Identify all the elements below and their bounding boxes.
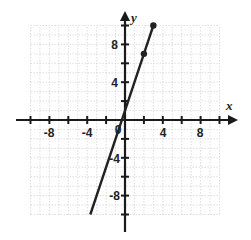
x-tick-label: 8 [197,126,204,140]
x-axis-label: x [225,98,233,113]
x-tick-label: -8 [44,126,55,140]
y-axis-label: y [129,10,137,25]
y-tick-label: 8 [111,38,118,52]
coordinate-plane: x y -8 -4 4 8 0 8 4 -4 -8 [0,0,251,240]
x-tick-label: 4 [160,126,167,140]
data-point [141,51,147,57]
y-tick-label: -4 [109,152,120,166]
y-tick-label: -8 [109,189,120,203]
data-line [90,22,156,214]
origin-label: 0 [115,123,122,137]
y-tick-label: 4 [111,76,118,90]
x-tick-label: -4 [82,126,93,140]
data-point [150,22,156,28]
